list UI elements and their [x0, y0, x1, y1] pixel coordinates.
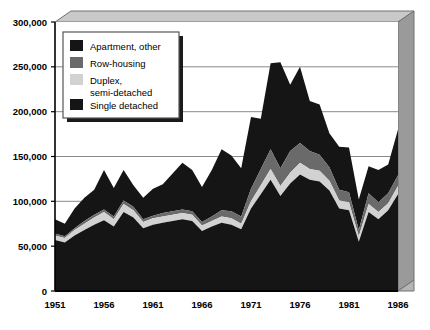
x-tick-label: 1986 [387, 299, 408, 310]
legend-swatch [70, 57, 83, 68]
frame-top-bevel [55, 11, 414, 22]
y-tick-label: 50,000 [18, 241, 47, 252]
stacked-area-chart: 050,000100,000150,000200,000250,000300,0… [0, 0, 430, 330]
legend-label: Row-housing [90, 58, 145, 69]
x-tick-label: 1961 [142, 299, 164, 310]
legend-swatch [70, 99, 83, 110]
legend-swatch [70, 74, 83, 85]
legend[interactable]: Apartment, otherRow-housingDuplex,semi-d… [63, 32, 183, 122]
y-tick-label: 150,000 [13, 151, 47, 162]
chart-container: 050,000100,000150,000200,000250,000300,0… [0, 0, 430, 330]
y-axis-labels: 050,000100,000150,000200,000250,000300,0… [13, 17, 47, 297]
frame-right-bevel [398, 11, 414, 291]
x-tick-label: 1966 [191, 299, 212, 310]
legend-label: Apartment, other [90, 41, 161, 52]
x-tick-label: 1971 [240, 299, 262, 310]
legend-label: Duplex, [90, 75, 122, 86]
legend-swatch [70, 40, 83, 51]
legend-label-line2: semi-detached [90, 87, 152, 98]
legend-label: Single detached [90, 100, 158, 111]
y-tick-label: 300,000 [13, 17, 47, 28]
y-tick-label: 100,000 [13, 196, 47, 207]
y-tick-label: 200,000 [13, 106, 47, 117]
x-tick-label: 1976 [289, 299, 310, 310]
x-tick-label: 1951 [44, 299, 66, 310]
y-tick-label: 0 [42, 286, 47, 297]
x-axis-labels: 19511956196119661971197619811986 [44, 299, 408, 310]
x-tick-label: 1956 [93, 299, 114, 310]
y-tick-label: 250,000 [13, 61, 47, 72]
x-tick-label: 1981 [338, 299, 360, 310]
